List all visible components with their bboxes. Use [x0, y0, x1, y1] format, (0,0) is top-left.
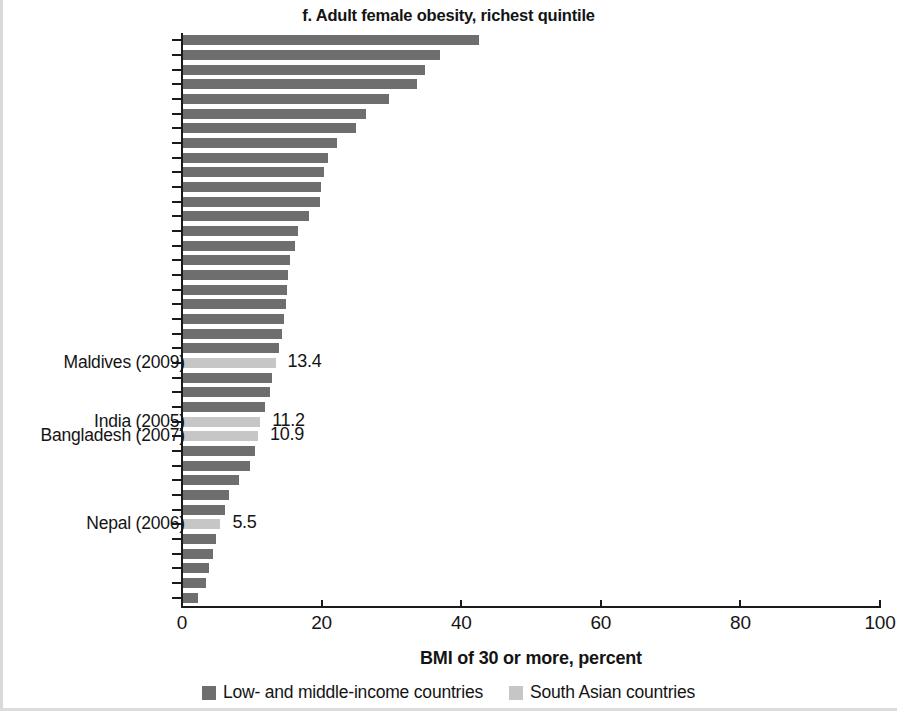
- bar: [182, 153, 328, 163]
- bar: [182, 79, 417, 89]
- y-axis-tick: [172, 171, 182, 173]
- bar: [182, 109, 366, 119]
- y-axis-tick: [172, 347, 182, 349]
- bar: [182, 35, 479, 45]
- y-axis-tick: [172, 186, 182, 188]
- legend-item-south-asian: South Asian countries: [509, 682, 695, 703]
- bar: [182, 50, 440, 60]
- y-axis-tick: [172, 333, 182, 335]
- y-axis-tick: [172, 54, 182, 56]
- x-axis-tick-label: 60: [591, 612, 612, 634]
- y-axis-tick: [172, 215, 182, 217]
- bar: [182, 593, 198, 603]
- x-axis-tick-label: 100: [865, 612, 896, 634]
- bar: [182, 402, 265, 412]
- bar: [182, 226, 298, 236]
- scan-edge-left: [0, 0, 3, 711]
- chart-title: f. Adult female obesity, richest quintil…: [0, 6, 897, 25]
- bar: [182, 241, 295, 251]
- bar-value-label: 13.4: [288, 351, 322, 372]
- y-axis-tick: [172, 245, 182, 247]
- y-axis-tick: [172, 289, 182, 291]
- y-axis-tick: [172, 142, 182, 144]
- bar: [182, 446, 255, 456]
- y-axis-tick: [172, 303, 182, 305]
- bar: [182, 123, 356, 133]
- x-axis-tick-label: 20: [311, 612, 332, 634]
- y-axis-tick: [172, 450, 182, 452]
- bar: [182, 167, 324, 177]
- bar: [182, 417, 260, 427]
- bar: [182, 182, 321, 192]
- bar: [182, 343, 279, 353]
- y-axis-tick: [172, 201, 182, 203]
- bar-value-label: 5.5: [232, 512, 256, 533]
- x-axis-tick: [600, 600, 602, 608]
- y-axis-tick: [172, 377, 182, 379]
- bar: [182, 94, 389, 104]
- bar: [182, 299, 286, 309]
- y-axis-tick: [172, 69, 182, 71]
- y-axis-tick: [172, 494, 182, 496]
- bar: [182, 285, 287, 295]
- legend-label-south-asian: South Asian countries: [530, 682, 695, 703]
- bar: [182, 358, 276, 368]
- y-axis-tick: [172, 406, 182, 408]
- bar: [182, 138, 337, 148]
- bar: [182, 534, 216, 544]
- x-axis-tick: [460, 600, 462, 608]
- y-axis-tick: [172, 553, 182, 555]
- country-label: Bangladesh (2007): [41, 425, 186, 446]
- y-axis-tick: [172, 597, 182, 599]
- x-axis-tick: [321, 600, 323, 608]
- x-axis-tick-label: 40: [451, 612, 472, 634]
- y-axis-tick: [172, 509, 182, 511]
- y-axis-tick: [172, 479, 182, 481]
- y-axis-tick: [172, 259, 182, 261]
- x-axis-tick: [879, 600, 881, 608]
- x-axis-tick: [739, 600, 741, 608]
- bar: [182, 255, 290, 265]
- country-label: Nepal (2006): [86, 513, 185, 534]
- bar: [182, 519, 220, 529]
- y-axis-tick: [172, 391, 182, 393]
- plot-area: [182, 33, 880, 605]
- y-axis-tick: [172, 582, 182, 584]
- y-axis-tick: [172, 83, 182, 85]
- bar: [182, 461, 250, 471]
- bar: [182, 270, 288, 280]
- y-axis-tick: [172, 274, 182, 276]
- bar: [182, 549, 213, 559]
- bar: [182, 65, 425, 75]
- bar: [182, 578, 206, 588]
- y-axis-tick: [172, 538, 182, 540]
- x-axis-tick: [181, 600, 183, 608]
- y-axis-tick: [172, 465, 182, 467]
- bar: [182, 563, 209, 573]
- bar: [182, 490, 229, 500]
- x-axis-tick-label: 0: [177, 612, 187, 634]
- bar: [182, 431, 258, 441]
- legend-label-lmic: Low- and middle-income countries: [223, 682, 483, 703]
- bar: [182, 211, 309, 221]
- y-axis-tick: [172, 318, 182, 320]
- legend-item-lmic: Low- and middle-income countries: [202, 682, 483, 703]
- bar: [182, 387, 270, 397]
- x-axis-line: [181, 606, 880, 608]
- chart-figure: f. Adult female obesity, richest quintil…: [0, 0, 897, 711]
- bar: [182, 329, 282, 339]
- x-axis-title: BMI of 30 or more, percent: [182, 648, 880, 669]
- bar: [182, 475, 239, 485]
- y-axis-tick: [172, 157, 182, 159]
- bar: [182, 373, 272, 383]
- chart-legend: Low- and middle-income countries South A…: [0, 682, 897, 703]
- legend-swatch-icon-lmic: [202, 686, 216, 700]
- legend-swatch-icon-south-asian: [509, 686, 523, 700]
- bar: [182, 314, 284, 324]
- bar: [182, 505, 225, 515]
- y-axis-tick: [172, 39, 182, 41]
- bar: [182, 197, 320, 207]
- y-axis-tick: [172, 230, 182, 232]
- x-axis-tick-label: 80: [730, 612, 751, 634]
- country-label: Maldives (2009): [64, 352, 186, 373]
